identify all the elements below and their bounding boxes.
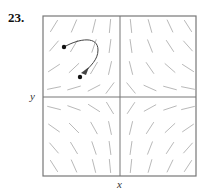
field-arrow	[183, 41, 192, 51]
trajectory-curve	[64, 40, 98, 72]
field-arrow	[147, 39, 152, 52]
field-arrow	[130, 159, 131, 173]
field-arrow	[108, 61, 111, 75]
field-arrow	[48, 64, 60, 72]
field-arrow	[184, 20, 192, 32]
field-arrow	[148, 19, 152, 32]
field-arrow	[181, 87, 195, 90]
field-arrow	[88, 85, 100, 91]
field-arrow	[109, 121, 112, 135]
field-arrow	[71, 20, 77, 33]
trajectory-end-point	[78, 75, 82, 79]
field-arrow	[183, 143, 192, 153]
field-arrow	[166, 142, 174, 154]
field-arrow	[163, 106, 176, 110]
field-arrow	[167, 20, 173, 33]
field-arrow	[50, 160, 58, 172]
field-arrow	[147, 141, 152, 154]
field-arrow	[49, 143, 58, 154]
field-arrow	[166, 40, 174, 52]
field-arrow	[109, 39, 111, 53]
direction-field-plot	[0, 0, 203, 193]
trajectory-arrowhead-icon	[81, 67, 89, 75]
field-arrow	[127, 83, 136, 94]
field-arrow	[146, 62, 154, 74]
trajectory-start-point	[62, 45, 66, 49]
field-arrow	[130, 39, 132, 53]
field-arrow	[129, 121, 132, 135]
field-arrow	[184, 160, 192, 172]
field-arrow	[144, 85, 157, 91]
field-arrow	[47, 106, 61, 109]
field-arrow	[47, 87, 61, 90]
field-arrow	[165, 63, 176, 72]
field-arrow	[130, 141, 132, 155]
field-arrow	[146, 122, 154, 134]
field-arrow	[109, 159, 110, 173]
field-arrow	[91, 122, 98, 134]
field-arrow	[92, 19, 95, 33]
field-arrow	[50, 20, 57, 32]
field-arrow	[127, 102, 135, 114]
field-arrow	[70, 142, 77, 154]
field-arrow	[69, 63, 79, 73]
field-arrow	[167, 160, 173, 173]
field-arrow	[130, 19, 131, 33]
field-arrow	[182, 124, 194, 132]
field-arrow	[148, 159, 152, 172]
vector-field-arrows	[47, 19, 195, 173]
field-arrow	[49, 41, 58, 52]
field-arrow	[106, 82, 114, 93]
field-arrow	[48, 124, 59, 132]
field-arrow	[90, 62, 97, 74]
field-arrow	[92, 141, 97, 154]
field-arrow	[144, 105, 156, 112]
field-arrow	[106, 102, 113, 114]
field-arrow	[163, 86, 177, 90]
field-arrow	[71, 160, 77, 173]
field-arrow	[109, 19, 110, 33]
field-arrow	[181, 106, 195, 109]
field-arrow	[67, 86, 80, 90]
field-arrow	[92, 159, 95, 173]
field-arrow	[109, 141, 111, 155]
field-arrow	[165, 123, 175, 133]
field-arrow	[88, 104, 100, 112]
field-arrow	[69, 123, 79, 133]
field-arrow	[129, 61, 132, 75]
field-arrow	[182, 64, 194, 72]
field-arrow	[67, 106, 80, 111]
